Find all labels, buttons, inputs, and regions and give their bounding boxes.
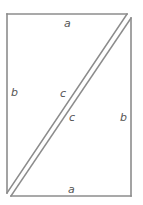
lower-right-triangle — [11, 18, 131, 196]
label-bottom-a: a — [68, 183, 75, 196]
label-lower-c: c — [69, 111, 75, 124]
label-right-b: b — [120, 111, 127, 124]
label-upper-c: c — [60, 87, 66, 100]
upper-triangle-hypotenuse-c — [7, 14, 127, 193]
triangle-diagram: a b c c b a — [0, 0, 143, 205]
label-left-b: b — [11, 86, 18, 99]
lower-triangle-hypotenuse-c — [11, 18, 131, 196]
upper-left-triangle — [7, 14, 127, 193]
label-top-a: a — [64, 17, 71, 30]
